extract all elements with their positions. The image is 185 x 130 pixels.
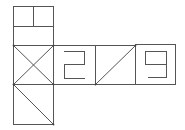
face-middle-left xyxy=(14,46,54,85)
digit-9-glyph xyxy=(146,52,167,78)
diagonal-line xyxy=(96,46,136,85)
face-digit-2 xyxy=(54,46,96,85)
face-diagonal xyxy=(96,46,136,85)
digit-2-glyph xyxy=(64,52,85,79)
face-top xyxy=(14,7,54,46)
cube-net-diagram xyxy=(0,0,185,130)
face-digit-9 xyxy=(136,45,176,85)
face-bottom xyxy=(14,85,54,125)
bottom-diagonal-line xyxy=(14,85,54,125)
